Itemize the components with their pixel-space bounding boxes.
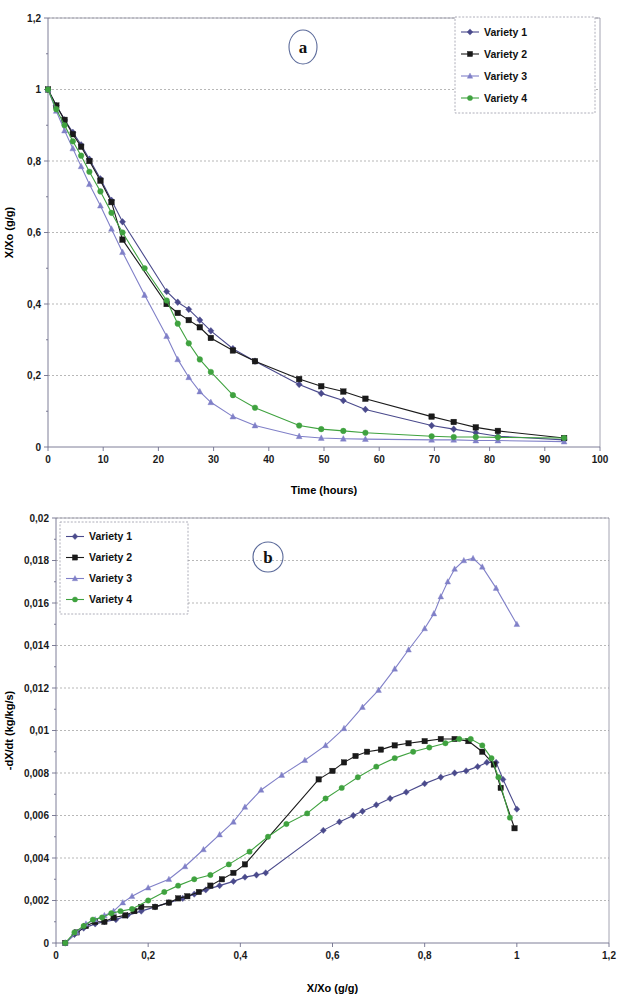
data-point-circle	[62, 122, 68, 128]
x-tick-label: 0	[45, 454, 51, 465]
y-tick-label: 1	[35, 84, 41, 95]
x-tick-label: 10	[98, 454, 110, 465]
data-point-circle	[468, 736, 473, 741]
data-point-square	[318, 383, 324, 389]
data-point-square	[341, 389, 347, 395]
data-point-square	[175, 896, 180, 901]
data-point-square	[186, 317, 192, 323]
data-point-square	[438, 736, 443, 741]
x-tick-label: 80	[484, 454, 496, 465]
legend-label: Variety 4	[484, 92, 527, 104]
chart-a: 00,20,40,60,811,20102030405060708090100T…	[0, 0, 621, 500]
data-point-square	[392, 743, 397, 748]
data-point-circle	[296, 423, 302, 429]
data-point-square	[109, 199, 115, 205]
data-point-circle	[507, 815, 512, 820]
data-point-square	[72, 555, 77, 560]
data-point-circle	[120, 230, 126, 236]
data-point-circle	[410, 749, 415, 754]
x-tick-label: 0,2	[141, 950, 155, 961]
y-tick-label: 0,2	[27, 370, 41, 381]
y-axis-ticks: 00,0020,0040,0060,0080,010,0120,0140,016…	[24, 513, 56, 949]
data-point-square	[378, 747, 383, 752]
data-point-circle	[451, 434, 457, 440]
data-point-circle	[109, 911, 114, 916]
y-tick-label: 1,2	[27, 13, 41, 24]
figure-page: 00,20,40,60,811,20102030405060708090100T…	[0, 0, 621, 998]
x-tick-label: 1,2	[602, 950, 616, 961]
data-point-circle	[392, 755, 397, 760]
data-point-circle	[304, 811, 309, 816]
legend-label: Variety 3	[89, 572, 132, 584]
data-point-circle	[78, 153, 84, 159]
legend[interactable]: Variety 1Variety 2Variety 3Variety 4	[60, 522, 188, 614]
data-point-circle	[284, 821, 289, 826]
legend-label: Variety 1	[89, 530, 132, 542]
y-tick-label: 0,02	[30, 513, 50, 524]
x-axis-title: X/Xo (g/g)	[307, 982, 359, 994]
data-point-circle	[162, 889, 167, 894]
panel-letter: a	[299, 38, 308, 57]
data-point-square	[208, 335, 214, 341]
data-point-square	[429, 414, 435, 420]
data-point-circle	[98, 189, 104, 195]
data-point-square	[78, 144, 84, 150]
y-tick-label: 0	[35, 442, 41, 453]
x-tick-label: 60	[374, 454, 386, 465]
data-point-circle	[63, 940, 68, 945]
data-point-circle	[109, 210, 115, 216]
data-point-square	[98, 178, 104, 184]
data-point-square	[152, 904, 157, 909]
legend-label: Variety 2	[89, 551, 132, 563]
x-axis-ticks: 00,20,40,60,811,2	[53, 943, 616, 961]
data-point-circle	[561, 435, 567, 441]
data-point-square	[208, 883, 213, 888]
data-point-circle	[341, 428, 347, 434]
data-point-circle	[164, 298, 170, 304]
x-tick-label: 20	[153, 454, 165, 465]
data-point-circle	[90, 917, 95, 922]
data-point-circle	[145, 898, 150, 903]
data-point-circle	[226, 862, 231, 867]
data-point-circle	[473, 434, 479, 440]
data-point-circle	[355, 775, 360, 780]
data-point-square	[316, 777, 321, 782]
data-point-circle	[175, 321, 181, 327]
data-point-circle	[374, 764, 379, 769]
data-point-circle	[208, 872, 213, 877]
y-tick-label: 0,016	[24, 598, 49, 609]
data-point-circle	[489, 755, 494, 760]
data-point-circle	[252, 405, 258, 411]
y-axis-title: -dX/dt (kg/kg/s)	[3, 690, 15, 770]
data-point-square	[480, 749, 485, 754]
y-tick-label: 0,6	[27, 227, 41, 238]
data-point-circle	[45, 87, 51, 93]
x-axis-ticks: 0102030405060708090100	[45, 447, 609, 465]
data-point-square	[196, 889, 201, 894]
data-point-circle	[247, 849, 252, 854]
x-tick-label: 0,8	[418, 950, 432, 961]
data-point-square	[120, 237, 126, 243]
data-point-circle	[118, 908, 123, 913]
data-point-square	[353, 753, 358, 758]
data-point-square	[122, 913, 127, 918]
x-tick-label: 0	[53, 950, 59, 961]
data-point-circle	[427, 745, 432, 750]
data-point-square	[451, 419, 457, 425]
data-point-square	[70, 131, 76, 137]
data-point-square	[422, 738, 427, 743]
data-point-circle	[480, 743, 485, 748]
data-point-circle	[363, 430, 369, 436]
data-point-square	[185, 894, 190, 899]
data-point-circle	[70, 139, 76, 145]
data-point-square	[252, 358, 258, 364]
legend-label: Variety 3	[484, 70, 527, 82]
legend[interactable]: Variety 1Variety 2Variety 3Variety 4	[455, 17, 595, 113]
panel-letter: b	[263, 548, 272, 567]
x-tick-label: 30	[208, 454, 220, 465]
y-axis-title: X/Xo (g/g)	[3, 207, 15, 259]
data-point-circle	[323, 796, 328, 801]
data-point-circle	[339, 785, 344, 790]
y-axis-ticks: 00,20,40,60,811,2	[27, 13, 48, 453]
x-tick-label: 1	[514, 950, 520, 961]
